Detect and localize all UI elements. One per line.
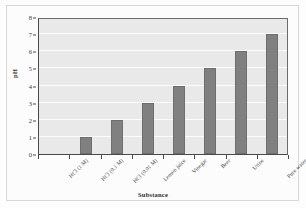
y-tick-mark (33, 137, 36, 138)
bar (111, 120, 123, 154)
y-tick-mark (33, 35, 36, 36)
x-axis-title: Substance (0, 191, 306, 198)
x-tick-label: HCl (1 M) (68, 158, 89, 179)
y-axis-ticks: 012345678 (0, 18, 36, 155)
x-tick-label: HCl (0.1 M) (100, 158, 124, 182)
x-tick-label: HCl (0.01 M) (132, 158, 158, 184)
x-tick-label: Vinegar (191, 158, 208, 175)
y-tick-mark (33, 120, 36, 121)
y-tick-label: 6 (29, 49, 32, 56)
bar-slot (163, 19, 194, 154)
bar-slot (39, 19, 70, 154)
y-tick-mark (33, 86, 36, 87)
bar-slot (70, 19, 101, 154)
chart-figure: pH 012345678 HCl (1 M)HCl (0.1 M)HCl (0.… (0, 0, 306, 208)
bar (204, 68, 216, 154)
bar-slot (194, 19, 225, 154)
x-tick-mark (288, 155, 289, 159)
bar (266, 34, 278, 154)
x-tick-label: Urine (252, 158, 265, 171)
y-tick-mark (33, 52, 36, 53)
bar-slot (225, 19, 256, 154)
y-tick-label: 1 (29, 135, 32, 142)
y-tick-label: 7 (29, 32, 32, 39)
y-tick-label: 8 (29, 15, 32, 22)
bar-slot (132, 19, 163, 154)
bar (235, 51, 247, 154)
y-tick-mark (33, 103, 36, 104)
y-tick-label: 0 (29, 152, 32, 159)
x-axis-labels: HCl (1 M)HCl (0.1 M)HCl (0.01 M)Lemon ju… (38, 158, 288, 192)
plot-area (38, 18, 288, 155)
y-tick-mark (33, 155, 36, 156)
y-tick-label: 4 (29, 83, 32, 90)
bar-slot (256, 19, 287, 154)
y-tick-mark (33, 18, 36, 19)
y-tick-label: 5 (29, 66, 32, 73)
y-tick-label: 3 (29, 100, 32, 107)
bar-slot (101, 19, 132, 154)
x-tick-label: Beer (220, 158, 232, 170)
bar (80, 137, 92, 154)
bar (173, 86, 185, 155)
bar-series (39, 19, 287, 154)
bar (142, 103, 154, 154)
x-tick-label: Lemon juice (163, 158, 188, 183)
y-tick-mark (33, 69, 36, 70)
y-tick-label: 2 (29, 118, 32, 125)
